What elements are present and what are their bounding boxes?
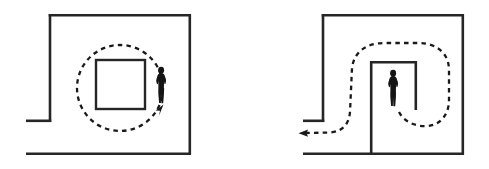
circular-trajectory	[77, 45, 164, 131]
u-turn-trajectory	[299, 43, 450, 137]
room-outline-right	[303, 14, 464, 155]
trajectory-arrow-right	[299, 130, 309, 137]
diagram-canvas	[0, 0, 489, 169]
floorplan-diagram	[0, 0, 489, 169]
person-head-left	[158, 67, 164, 74]
right-panel	[299, 14, 465, 155]
person-figure-right	[388, 70, 398, 106]
trajectory-u-turn	[305, 43, 449, 133]
room-outline-left	[26, 14, 191, 155]
central-square-obstacle	[96, 60, 145, 109]
trajectory-circle	[77, 45, 163, 131]
person-head-right	[390, 70, 396, 77]
left-panel	[26, 14, 191, 155]
